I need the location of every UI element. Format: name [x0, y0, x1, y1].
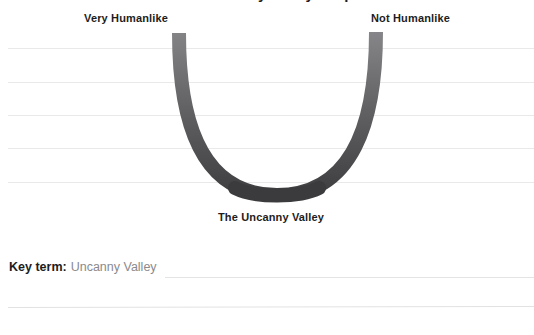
rule-line-5 — [8, 182, 534, 183]
rule-line-2 — [8, 82, 534, 83]
label-uncanny-valley: The Uncanny Valley — [218, 211, 324, 223]
rule-line-3 — [8, 115, 534, 116]
key-term-label: Key term: — [9, 260, 67, 274]
uncanny-valley-curve — [0, 0, 534, 335]
worksheet-page: The Uncanny Valley Graph Very Humanlike — [0, 0, 534, 335]
curve-right-arm — [277, 32, 376, 195]
label-very-humanlike: Very Humanlike — [84, 12, 168, 24]
rule-line-bottom — [8, 306, 534, 308]
label-not-humanlike: Not Humanlike — [371, 12, 450, 24]
page-title: The Uncanny Valley Graph — [0, 0, 534, 3]
key-term-answer-line[interactable] — [165, 277, 534, 278]
curve-left-arm — [179, 33, 277, 195]
page-title-clipped: The Uncanny Valley Graph — [0, 0, 534, 7]
rule-line-1 — [8, 48, 534, 49]
curve-trough — [235, 188, 319, 196]
key-term-row: Key term: Uncanny Valley — [9, 260, 534, 280]
key-term-value[interactable]: Uncanny Valley — [71, 260, 157, 274]
rule-line-4 — [8, 148, 534, 149]
